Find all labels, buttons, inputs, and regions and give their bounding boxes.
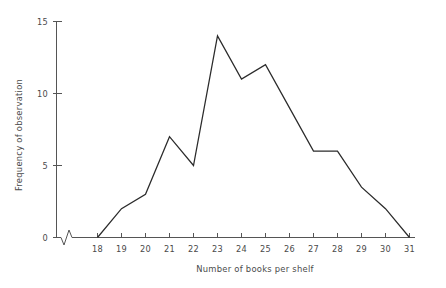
x-axis-title: Number of books per shelf	[196, 264, 314, 274]
x-tick-label-24: 24	[236, 244, 247, 254]
x-axis-break-icon	[57, 230, 79, 245]
x-tick-label-18: 18	[92, 244, 103, 254]
frequency-line-chart: Frequency of observation Number of books…	[0, 0, 446, 288]
y-tick-label-10: 10	[37, 89, 48, 99]
x-tick-label-28: 28	[332, 244, 343, 254]
x-tick-label-29: 29	[356, 244, 367, 254]
x-axis-ticks	[98, 233, 410, 238]
x-tick-label-31: 31	[404, 244, 415, 254]
frequency-series-line	[98, 36, 410, 238]
x-tick-label-23: 23	[212, 244, 223, 254]
x-axis-tick-labels: 18 19 20 21 22 23 24 25 26 27 28 29 30 3…	[92, 244, 415, 254]
y-tick-label-5: 5	[42, 161, 48, 171]
y-axis-title: Frequency of observation	[14, 79, 24, 191]
x-tick-label-30: 30	[380, 244, 391, 254]
x-tick-label-19: 19	[116, 244, 127, 254]
x-tick-label-26: 26	[284, 244, 295, 254]
chart-container: Frequency of observation Number of books…	[0, 0, 446, 288]
x-tick-label-22: 22	[188, 244, 199, 254]
y-axis-ticks	[53, 22, 62, 238]
x-tick-label-20: 20	[140, 244, 151, 254]
x-tick-label-25: 25	[260, 244, 271, 254]
y-tick-label-15: 15	[37, 17, 48, 27]
x-tick-label-21: 21	[164, 244, 175, 254]
x-tick-label-27: 27	[308, 244, 319, 254]
y-tick-label-0: 0	[42, 233, 48, 243]
